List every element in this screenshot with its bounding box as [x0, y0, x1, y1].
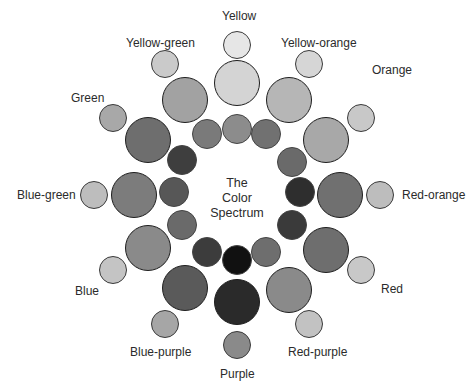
- blue-inner-circle: [167, 210, 197, 240]
- blue-outer-circle: [99, 256, 127, 284]
- yellow-orange-outer-circle: [295, 50, 323, 78]
- red-inner-circle: [277, 210, 307, 240]
- green-outer-circle: [99, 104, 127, 132]
- orange-middle-circle: [303, 117, 349, 163]
- yellow-green-label: Yellow-green: [126, 36, 195, 50]
- red-purple-outer-circle: [295, 310, 323, 338]
- red-orange-outer-circle: [366, 181, 394, 209]
- green-label: Green: [71, 91, 104, 105]
- green-middle-circle: [125, 117, 171, 163]
- purple-inner-circle: [222, 245, 252, 275]
- center-title-line-2: Color: [197, 191, 277, 206]
- red-orange-label: Red-orange: [402, 188, 465, 202]
- yellow-orange-middle-circle: [266, 77, 312, 123]
- yellow-orange-inner-circle: [251, 119, 281, 149]
- blue-green-inner-circle: [159, 177, 189, 207]
- red-purple-inner-circle: [251, 237, 281, 267]
- blue-purple-outer-circle: [151, 310, 179, 338]
- blue-green-label: Blue-green: [17, 188, 76, 202]
- red-label: Red: [381, 282, 403, 296]
- red-purple-label: Red-purple: [288, 345, 347, 359]
- red-orange-middle-circle: [317, 172, 363, 218]
- yellow-green-middle-circle: [162, 77, 208, 123]
- center-title: The Color Spectrum: [197, 176, 277, 221]
- center-title-line-1: The: [197, 176, 277, 191]
- orange-outer-circle: [347, 104, 375, 132]
- blue-purple-inner-circle: [192, 237, 222, 267]
- blue-purple-middle-circle: [162, 265, 208, 311]
- yellow-outer-circle: [223, 31, 251, 59]
- yellow-green-outer-circle: [151, 50, 179, 78]
- blue-purple-label: Blue-purple: [130, 345, 191, 359]
- blue-green-middle-circle: [111, 172, 157, 218]
- blue-label: Blue: [75, 284, 99, 298]
- blue-middle-circle: [125, 225, 171, 271]
- red-purple-middle-circle: [266, 267, 312, 313]
- red-middle-circle: [303, 227, 349, 273]
- center-title-line-3: Spectrum: [197, 206, 277, 221]
- yellow-green-inner-circle: [192, 119, 222, 149]
- yellow-orange-label: Yellow-orange: [281, 36, 357, 50]
- blue-green-outer-circle: [80, 181, 108, 209]
- purple-middle-circle: [214, 279, 260, 325]
- purple-outer-circle: [223, 331, 251, 359]
- green-inner-circle: [167, 145, 197, 175]
- orange-inner-circle: [277, 147, 307, 177]
- red-orange-inner-circle: [285, 177, 315, 207]
- color-spectrum-diagram: The Color Spectrum YellowYellow-orangeOr…: [0, 0, 476, 392]
- red-outer-circle: [347, 256, 375, 284]
- orange-label: Orange: [372, 63, 412, 77]
- yellow-middle-circle: [214, 60, 260, 106]
- yellow-inner-circle: [222, 114, 252, 144]
- yellow-label: Yellow: [222, 9, 256, 23]
- purple-label: Purple: [220, 367, 255, 381]
